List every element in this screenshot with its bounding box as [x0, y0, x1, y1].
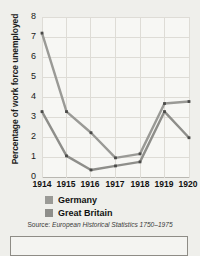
- y-tick-label-8: 8: [20, 11, 36, 21]
- x-tick-label-1914: 1914: [33, 179, 52, 189]
- line-germany: [42, 33, 189, 158]
- legend-item-great-britain: Great Britain: [45, 206, 113, 219]
- data-point: [65, 154, 68, 157]
- legend-swatch-great-britain: [45, 209, 53, 217]
- data-point: [114, 165, 117, 168]
- plot-wrapper: Percentage of work force unemployed 8 7 …: [0, 0, 200, 190]
- plot-area: [42, 17, 190, 178]
- line-great-britain: [42, 112, 189, 170]
- y-axis-label: Percentage of work force unemployed: [10, 4, 20, 174]
- data-point: [114, 156, 117, 159]
- data-point: [90, 131, 93, 134]
- data-point: [139, 152, 142, 155]
- x-tick-label-1918: 1918: [131, 179, 150, 189]
- data-point: [163, 102, 166, 105]
- caption-box: [10, 236, 188, 256]
- source-text: European Historical Statistics 1750–1975: [52, 221, 173, 228]
- data-point: [139, 161, 142, 164]
- data-point: [188, 136, 191, 139]
- y-tick-label-2: 2: [20, 131, 36, 141]
- x-tick-label-1917: 1917: [106, 179, 125, 189]
- x-tick-label-1916: 1916: [81, 179, 100, 189]
- x-tick-label-1919: 1919: [155, 179, 174, 189]
- source-prefix: Source:: [27, 221, 50, 228]
- points-germany: [41, 32, 191, 160]
- data-point: [188, 100, 191, 103]
- points-great-britain: [41, 110, 191, 171]
- x-tick-label-1915: 1915: [57, 179, 76, 189]
- series-svg: [42, 17, 190, 178]
- source-note: Source: European Historical Statistics 1…: [0, 221, 200, 228]
- data-point: [41, 110, 44, 113]
- x-tick-label-1920: 1920: [179, 179, 198, 189]
- y-tick-label-7: 7: [20, 31, 36, 41]
- y-tick-label-5: 5: [20, 71, 36, 81]
- data-point: [90, 169, 93, 172]
- legend-label-great-britain: Great Britain: [58, 208, 113, 218]
- legend-item-germany: Germany: [45, 193, 113, 206]
- y-tick-label-6: 6: [20, 51, 36, 61]
- legend-swatch-germany: [45, 196, 53, 204]
- y-tick-label-1: 1: [20, 151, 36, 161]
- data-point: [65, 110, 68, 113]
- data-point: [41, 32, 44, 35]
- legend-label-germany: Germany: [58, 195, 97, 205]
- y-tick-label-3: 3: [20, 111, 36, 121]
- data-point: [163, 110, 166, 113]
- chart-legend: Germany Great Britain: [45, 193, 113, 219]
- y-tick-label-4: 4: [20, 91, 36, 101]
